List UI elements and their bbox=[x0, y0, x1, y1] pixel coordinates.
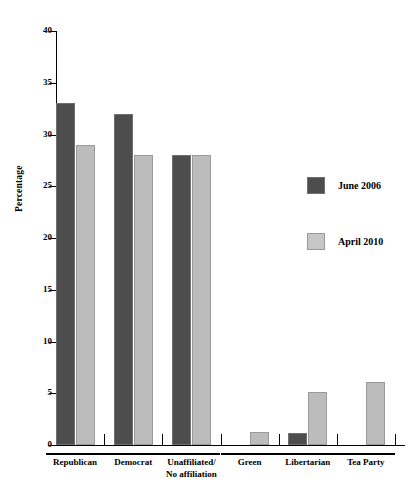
x-tick-mark bbox=[221, 434, 222, 446]
x-axis-label-line: Tea Party bbox=[323, 457, 409, 469]
legend-label: April 2010 bbox=[338, 236, 383, 247]
y-tick: 0 bbox=[56, 445, 57, 446]
x-label-rule bbox=[279, 453, 337, 455]
y-axis-title: Percentage bbox=[14, 112, 24, 212]
bar bbox=[76, 145, 95, 445]
legend-item-april-2010: April 2010 bbox=[307, 233, 383, 250]
x-axis-label: Tea Party bbox=[323, 457, 409, 469]
x-label-rule bbox=[162, 453, 220, 455]
bar bbox=[192, 155, 211, 445]
x-tick-mark bbox=[162, 434, 163, 446]
y-tick-label: 15 bbox=[43, 284, 52, 295]
x-axis-line bbox=[56, 445, 405, 446]
y-tick-label: 0 bbox=[48, 439, 53, 450]
legend-swatch-icon bbox=[307, 177, 325, 194]
x-label-rule bbox=[221, 453, 279, 455]
bar bbox=[172, 155, 191, 445]
legend-swatch-icon bbox=[307, 233, 325, 250]
bar-chart: Percentage 0510152025303540 RepublicanDe… bbox=[0, 0, 417, 494]
x-tick-mark bbox=[279, 434, 280, 446]
x-label-rule bbox=[46, 453, 104, 455]
y-tick: 40 bbox=[56, 31, 57, 32]
y-tick-label: 35 bbox=[43, 77, 52, 88]
y-tick-label: 25 bbox=[43, 180, 52, 191]
bar bbox=[288, 433, 307, 445]
bar bbox=[56, 103, 75, 445]
bar bbox=[250, 432, 269, 445]
legend-item-june-2006: June 2006 bbox=[307, 177, 381, 194]
legend-label: June 2006 bbox=[338, 180, 381, 191]
y-tick-label: 20 bbox=[43, 232, 52, 243]
bar bbox=[308, 392, 327, 445]
y-tick-label: 40 bbox=[43, 25, 52, 36]
y-tick: 35 bbox=[56, 83, 57, 84]
y-tick-label: 30 bbox=[43, 129, 52, 140]
x-label-rule bbox=[104, 453, 162, 455]
x-tick-mark bbox=[337, 434, 338, 446]
bar bbox=[366, 382, 385, 445]
bar bbox=[134, 155, 153, 445]
x-tick-mark bbox=[395, 434, 396, 446]
x-axis-label-line: No affiliation bbox=[148, 469, 234, 481]
y-tick-label: 5 bbox=[48, 387, 53, 398]
x-tick-mark bbox=[104, 434, 105, 446]
y-tick-label: 10 bbox=[43, 336, 52, 347]
bar bbox=[114, 114, 133, 445]
x-label-rule bbox=[337, 453, 395, 455]
